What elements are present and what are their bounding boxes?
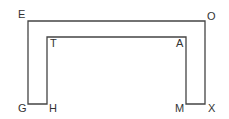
shape-outline: [28, 21, 205, 104]
vertex-label-t: T: [50, 37, 57, 49]
vertex-label-o: O: [207, 10, 216, 22]
vertex-label-e: E: [18, 8, 25, 20]
vertex-label-x: X: [208, 102, 216, 114]
vertex-label-a: A: [176, 37, 184, 49]
vertex-label-h: H: [49, 102, 57, 114]
vertex-label-m: M: [175, 102, 184, 114]
vertex-label-g: G: [18, 102, 27, 114]
shape-diagram: E O T A G H M X: [0, 0, 229, 119]
